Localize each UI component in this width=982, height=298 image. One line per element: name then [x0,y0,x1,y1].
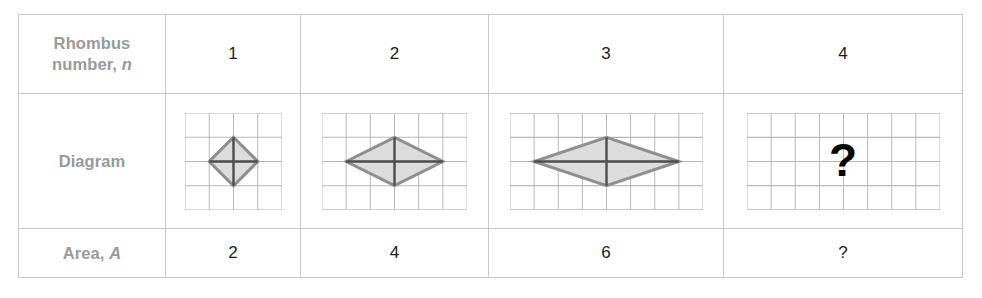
diagram-cell-1 [166,94,301,229]
table-row-area: Area, A 2 4 6 ? [19,229,963,278]
diagram-holder-3 [489,94,723,228]
diagram-holder-4: ? [724,94,962,228]
diagram-holder-1 [166,94,300,228]
row-header-symbol-a: A [109,244,121,262]
diagram-holder-2 [301,94,488,228]
rhombus-number-cell-4: 4 [724,15,963,94]
row-header-diagram-label: Diagram [59,152,126,170]
row-header-line2: number, [52,55,117,73]
row-header-area: Area, A [19,229,166,278]
diagram-cell-3 [489,94,724,229]
unknown-diagram-wrap: ? [747,113,940,210]
row-header-area-label: Area, [63,244,105,262]
table-row-diagram: Diagram [19,94,963,229]
rhombus-number-cell-1: 1 [166,15,301,94]
area-cell-2: 4 [301,229,489,278]
area-cell-1: 2 [166,229,301,278]
diagram-cell-2 [301,94,489,229]
rhombus-diagram-1 [185,113,282,210]
area-cell-3: 6 [489,229,724,278]
rhombus-pattern-table: Rhombus number, n 1 2 3 4 Diagram [18,14,963,278]
rhombus-diagram-2 [322,113,467,210]
row-header-line1: Rhombus [54,34,131,52]
unknown-diagram-question-mark: ? [747,113,940,210]
rhombus-number-cell-2: 2 [301,15,489,94]
rhombus-number-cell-3: 3 [489,15,724,94]
row-header-rhombus-number: Rhombus number, n [19,15,166,94]
table-row-rhombus-number: Rhombus number, n 1 2 3 4 [19,15,963,94]
rhombus-diagram-3 [510,113,703,210]
row-header-symbol-n: n [122,55,132,73]
row-header-diagram: Diagram [19,94,166,229]
area-cell-4: ? [724,229,963,278]
pattern-table-wrapper: Rhombus number, n 1 2 3 4 Diagram [18,14,962,277]
diagram-cell-4: ? [724,94,963,229]
